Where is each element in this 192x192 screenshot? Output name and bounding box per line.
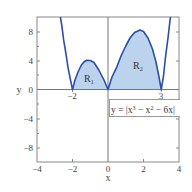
- root-label-neg2: −2: [67, 91, 77, 101]
- y-axis-label: y: [17, 84, 22, 95]
- x-tick-4: 4: [177, 164, 182, 174]
- eq-part: y = |x: [111, 105, 133, 115]
- x-tick-neg2: −2: [68, 164, 78, 174]
- x-axis-label: x: [106, 172, 111, 183]
- y-tick-0: 0: [29, 85, 34, 95]
- x-tick-2: 2: [141, 164, 146, 174]
- y-tick-neg4: −4: [23, 114, 33, 124]
- chart: 8 4 0 −4 −8 −4 −2 0 2 4 x y −2 3 R1 R2: [0, 0, 192, 192]
- y-tick-4: 4: [29, 56, 34, 66]
- equation-label: y = |x3 − x2 − 6x|: [109, 99, 180, 117]
- y-tick-neg8: −8: [23, 143, 33, 153]
- eq-part: − x: [136, 105, 151, 115]
- eq-part: − 6x|: [153, 105, 175, 115]
- y-tick-8: 8: [29, 27, 34, 37]
- x-tick-neg4: −4: [32, 164, 42, 174]
